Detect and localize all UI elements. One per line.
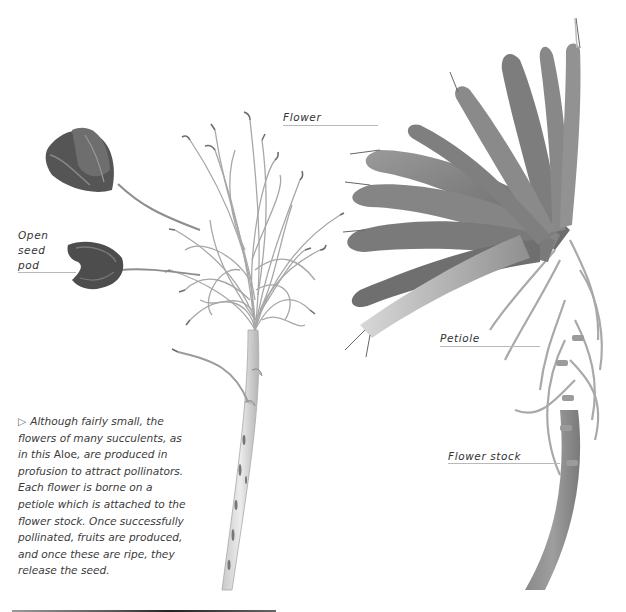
book-page: Flower Open seed pod Petiole Flower stoc… bbox=[0, 0, 626, 612]
open-seed-pod-leader-line bbox=[18, 272, 76, 273]
open-seed-pod-label-line3: pod bbox=[18, 258, 48, 273]
open-seed-pod-label: Open seed pod bbox=[18, 228, 48, 273]
upper-seed-pod bbox=[46, 128, 114, 192]
caption-plant-name: Aloe bbox=[54, 448, 77, 460]
caption-marker-icon: ▷ bbox=[18, 415, 26, 427]
caption-text-after: , are produced in profusion to attract p… bbox=[18, 448, 186, 576]
open-seed-pod-label-line2: seed bbox=[18, 243, 48, 258]
lower-seed-pod bbox=[67, 242, 123, 289]
petiole-leader-line bbox=[440, 346, 540, 347]
flower-leader-line bbox=[283, 125, 378, 126]
figure-caption: ▷Although fairly small, the flowers of m… bbox=[18, 413, 186, 579]
flower-stock-label: Flower stock bbox=[448, 449, 521, 464]
flower-label: Flower bbox=[283, 110, 321, 125]
petiole-label: Petiole bbox=[440, 331, 480, 346]
open-seed-pod-label-line1: Open bbox=[18, 228, 48, 243]
flower-tubes bbox=[347, 43, 580, 338]
flower-stock-leader-line bbox=[448, 463, 560, 464]
right-plant bbox=[343, 18, 602, 590]
